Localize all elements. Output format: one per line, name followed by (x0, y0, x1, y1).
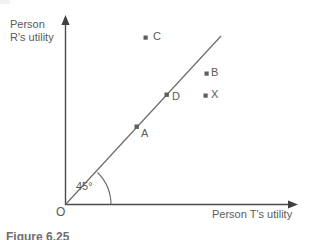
point-label-C: C (153, 30, 161, 43)
point-label-B: B (211, 66, 218, 79)
y-axis-title-line1: Person (10, 18, 45, 30)
point-label-A: A (141, 127, 148, 140)
point-B (205, 72, 209, 76)
y-axis-title-line2: R's utility (10, 31, 54, 43)
point-D (165, 93, 169, 97)
data-points (135, 36, 209, 129)
figure-caption: Figure 6.25 (6, 231, 69, 240)
angle-arc (98, 173, 112, 205)
angle-label: 45° (76, 180, 93, 193)
y-axis-title: PersonR's utility (10, 18, 54, 43)
x-axis-title: Person T's utility (212, 208, 292, 221)
point-label-D: D (172, 90, 180, 103)
y-axis (61, 15, 69, 205)
point-C (144, 36, 148, 40)
origin-label: O (56, 206, 65, 220)
point-label-X: X (211, 88, 218, 101)
point-A (135, 125, 139, 129)
figure-6-25: PersonR's utility Person T's utility O 4… (0, 0, 316, 240)
point-X (204, 94, 208, 98)
